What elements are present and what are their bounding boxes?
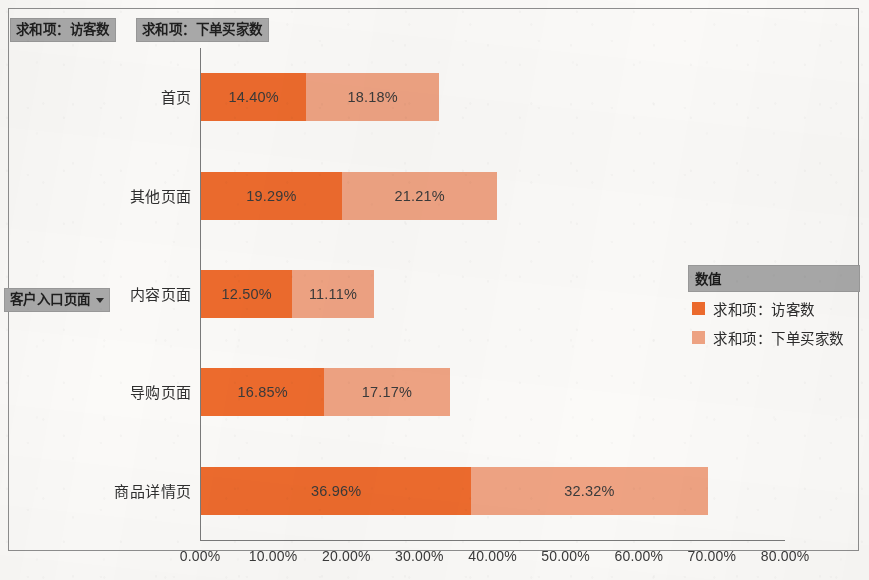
field-button-series-visitors[interactable]: 求和项：访客数 [10,18,116,42]
x-axis-tick-label: 20.00% [322,548,371,564]
y-axis-category-label: 内容页面 [130,287,192,302]
legend-items: 求和项：访客数求和项：下单买家数 [688,292,860,350]
legend-item-label: 求和项：访客数 [713,298,815,319]
bar-segment[interactable]: 36.96% [201,467,471,515]
bar-segment[interactable]: 18.18% [306,73,439,121]
field-button-axis-entry-page[interactable]: 客户入口页面 [4,288,110,312]
chevron-down-icon[interactable] [96,298,104,303]
bar-segment[interactable]: 16.85% [201,368,324,416]
stacked-bar[interactable]: 19.29%21.21% [201,172,497,220]
bar-value-label: 21.21% [394,188,444,204]
bar-segment[interactable]: 21.21% [342,172,497,220]
bar-value-label: 14.40% [228,89,278,105]
legend: 数值 求和项：访客数求和项：下单买家数 [688,265,860,350]
legend-color-swatch [692,302,705,315]
x-axis-tick-label: 70.00% [688,548,737,564]
x-axis-tick-label: 60.00% [614,548,663,564]
bar-value-label: 12.50% [222,286,272,302]
bar-row: 16.85%17.17% [200,343,785,441]
bar-value-label: 36.96% [311,483,361,499]
legend-color-swatch [692,331,705,344]
bar-segment[interactable]: 11.11% [292,270,373,318]
legend-title: 数值 [688,265,860,292]
field-button-series-buyers[interactable]: 求和项：下单买家数 [136,18,269,42]
bar-row: 14.40%18.18% [200,48,785,146]
field-button-axis-label: 客户入口页面 [10,291,90,308]
x-axis-tick-label: 40.00% [468,548,517,564]
x-axis-tick-label: 80.00% [761,548,810,564]
x-axis-tick-label: 50.00% [541,548,590,564]
bar-value-label: 32.32% [564,483,614,499]
x-axis-tick-label: 10.00% [249,548,298,564]
bar-row: 36.96%32.32% [200,442,785,540]
y-axis-category-label: 首页 [161,90,192,105]
bar-segment[interactable]: 19.29% [201,172,342,220]
bar-value-label: 17.17% [362,384,412,400]
bar-segment[interactable]: 32.32% [471,467,707,515]
stacked-bar[interactable]: 12.50%11.11% [201,270,374,318]
bar-segment[interactable]: 14.40% [201,73,306,121]
x-axis-tick-label: 0.00% [180,548,221,564]
bar-value-label: 19.29% [246,188,296,204]
stacked-bar[interactable]: 36.96%32.32% [201,467,708,515]
legend-item-label: 求和项：下单买家数 [713,327,844,348]
y-axis-category-label: 其他页面 [130,189,192,204]
legend-item[interactable]: 求和项：下单买家数 [688,321,860,350]
y-axis-category-label: 商品详情页 [114,484,192,499]
stacked-bar[interactable]: 14.40%18.18% [201,73,439,121]
bar-value-label: 18.18% [348,89,398,105]
stacked-bar[interactable]: 16.85%17.17% [201,368,450,416]
pivot-chart-screenshot: 求和项：访客数 求和项：下单买家数 客户入口页面 14.40%18.18%19.… [0,0,869,580]
bar-segment[interactable]: 12.50% [201,270,292,318]
x-axis-tick-label: 30.00% [395,548,444,564]
bar-value-label: 16.85% [237,384,287,400]
x-axis-line [200,540,785,541]
bar-segment[interactable]: 17.17% [324,368,450,416]
y-axis-category-label: 导购页面 [130,385,192,400]
bar-value-label: 11.11% [309,286,357,302]
bar-row: 19.29%21.21% [200,146,785,244]
legend-item[interactable]: 求和项：访客数 [688,292,860,321]
